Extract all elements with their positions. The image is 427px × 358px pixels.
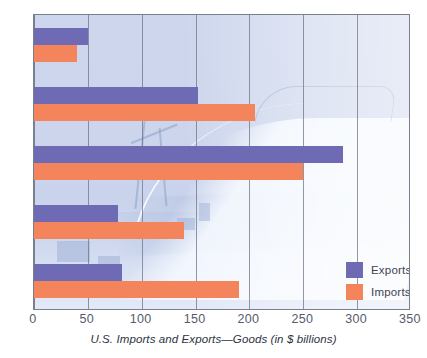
x-tick-300: 300	[345, 312, 367, 326]
legend-item-exports: Exports	[346, 262, 410, 278]
x-tick-150: 150	[184, 312, 206, 326]
bar-exports-group-5	[34, 264, 122, 281]
legend-label-exports: Exports	[371, 264, 410, 276]
bar-imports-group-4	[34, 222, 184, 239]
x-tick-100: 100	[130, 312, 152, 326]
bar-imports-group-1	[34, 45, 77, 62]
legend-swatch-imports	[346, 284, 363, 300]
bar-exports-group-3	[34, 146, 343, 163]
legend-label-imports: Imports	[371, 286, 410, 298]
bar-imports-group-5	[34, 281, 239, 298]
x-axis-tick-labels: 050100150200250300350	[0, 312, 427, 332]
plot-area: Exports Imports	[33, 14, 410, 310]
x-tick-250: 250	[291, 312, 313, 326]
x-tick-200: 200	[238, 312, 260, 326]
bar-exports-group-1	[34, 28, 88, 45]
bar-exports-group-2	[34, 87, 198, 104]
x-tick-350: 350	[399, 312, 421, 326]
x-tick-0: 0	[29, 312, 36, 326]
chart-caption: U.S. Imports and Exports—Goods (in $ bil…	[0, 333, 427, 345]
x-tick-50: 50	[80, 312, 95, 326]
legend: Exports Imports	[346, 262, 410, 306]
chart-figure: Exports Imports 050100150200250300350 U.…	[0, 0, 427, 358]
legend-item-imports: Imports	[346, 284, 410, 300]
bar-exports-group-4	[34, 205, 118, 222]
legend-swatch-exports	[346, 262, 363, 278]
bar-imports-group-2	[34, 104, 255, 121]
bar-imports-group-3	[34, 163, 303, 180]
